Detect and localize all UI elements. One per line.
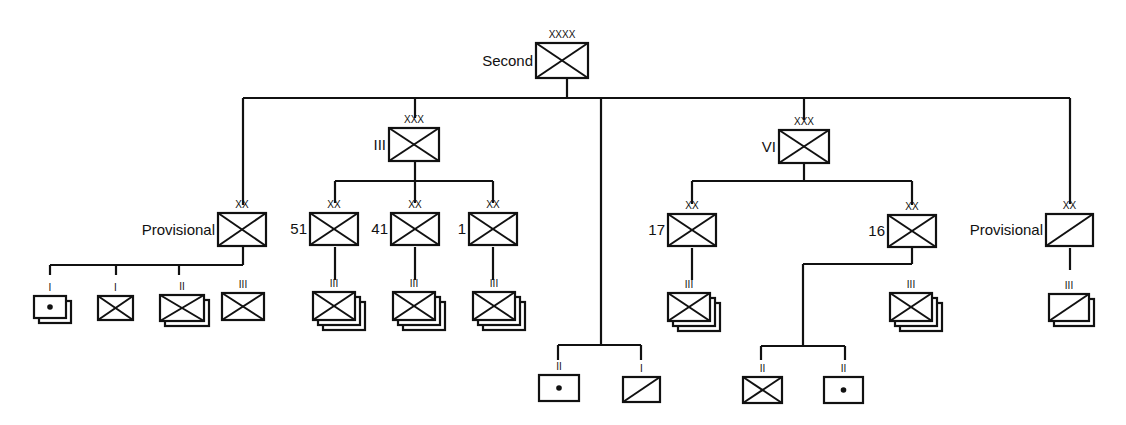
echelon-marker: XX (327, 199, 341, 210)
echelon-marker: III (907, 279, 915, 290)
echelon-marker: III (1065, 280, 1073, 291)
unit-node-prov-l: XXProvisional (142, 199, 266, 246)
echelon-marker: XX (685, 200, 699, 211)
unit-label: 16 (868, 222, 885, 239)
unit-label: VI (762, 138, 776, 155)
unit-node-bn-arty-c: II (539, 361, 579, 401)
unit-node-div-41: XX41 (371, 199, 439, 245)
unit-node-vi-corps: XXXVI (762, 116, 829, 163)
echelon-marker: II (841, 363, 847, 374)
echelon-marker: I (640, 363, 643, 374)
echelon-marker: II (556, 361, 562, 372)
unit-nodes: XXXXSecondXXProvisionalXXXIIIXX51XX41XX1… (34, 29, 1094, 403)
echelon-marker: III (239, 279, 247, 290)
unit-label: Provisional (970, 221, 1043, 238)
artillery-icon (841, 387, 847, 393)
unit-node-div-51: XX51 (290, 199, 358, 245)
echelon-marker: II (179, 281, 185, 292)
unit-node-prov-r: XXProvisional (970, 200, 1093, 246)
artillery-icon (47, 304, 53, 310)
unit-node-rgt-41: III (393, 278, 445, 330)
unit-label: 1 (458, 220, 466, 237)
unit-label: 51 (290, 220, 307, 237)
unit-label: 41 (371, 220, 388, 237)
unit-node-iii-corps: XXXIII (373, 114, 439, 161)
echelon-marker: III (330, 278, 338, 289)
org-chart-diagram: XXXXSecondXXProvisionalXXXIIIXX51XX41XX1… (0, 0, 1126, 425)
echelon-marker: II (760, 363, 766, 374)
echelon-marker: XXX (794, 116, 814, 127)
unit-node-div-1: XX1 (458, 199, 517, 245)
unit-node-bn-arty-vi: II (824, 363, 863, 403)
echelon-marker: XXXX (549, 29, 576, 40)
echelon-marker: XX (408, 199, 422, 210)
echelon-marker: III (685, 279, 693, 290)
echelon-marker: XX (905, 201, 919, 212)
unit-node-pl-arty: I (34, 282, 71, 323)
unit-node-rgt-1: III (473, 278, 525, 330)
echelon-marker: XX (235, 199, 249, 210)
unit-node-bn-inf-vi: II (743, 363, 782, 403)
echelon-marker: XX (486, 199, 500, 210)
unit-node-div-17: XX17 (648, 200, 716, 246)
unit-node-co-cav-c: I (623, 363, 660, 402)
unit-node-rgt-51: III (313, 278, 365, 330)
unit-label: Second (482, 52, 533, 69)
unit-node-rgt-16: III (890, 279, 942, 331)
unit-label: 17 (648, 221, 665, 238)
echelon-marker: I (49, 282, 52, 293)
echelon-marker: III (410, 278, 418, 289)
echelon-marker: I (114, 282, 117, 293)
unit-node-rgt-inf-l: III (222, 279, 264, 320)
unit-node-div-16: XX16 (868, 201, 936, 247)
echelon-marker: III (490, 278, 498, 289)
unit-label: III (373, 136, 386, 153)
artillery-icon (556, 385, 562, 391)
echelon-marker: XX (1063, 200, 1077, 211)
unit-node-rgt-cav-r: III (1049, 280, 1094, 326)
unit-label: Provisional (142, 221, 215, 238)
unit-node-pl-inf: I (98, 282, 133, 320)
echelon-marker: XXX (404, 114, 424, 125)
unit-node-bn-inf-l: II (160, 281, 209, 326)
unit-node-second: XXXXSecond (482, 29, 588, 78)
unit-node-rgt-17: III (668, 279, 720, 331)
